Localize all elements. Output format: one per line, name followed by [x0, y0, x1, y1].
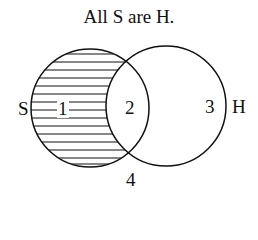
region-1-shading [20, 54, 170, 164]
region-1-label: 1 [57, 99, 69, 118]
region-3-label: 3 [205, 97, 215, 116]
circle-s-label: S [18, 99, 29, 118]
region-2-label: 2 [125, 98, 135, 117]
region-4-label: 4 [126, 170, 136, 189]
circle-h-label: H [232, 97, 246, 116]
